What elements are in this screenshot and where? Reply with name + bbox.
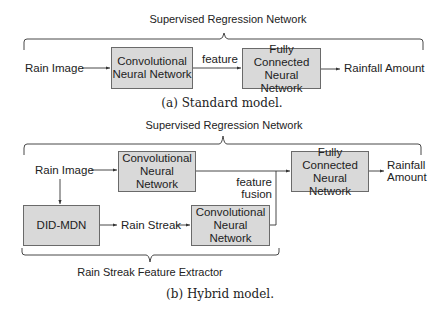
standard-fc-box: Fully Connected Neural Network	[242, 48, 321, 89]
hybrid-cnn-top-box: Convolutional Neural Network	[118, 151, 196, 192]
hybrid-bottom-brace-title: Rain Streak Feature Extractor	[77, 266, 223, 278]
hybrid-brace-title: Supervised Regression Network	[145, 119, 302, 131]
standard-feature-label: feature	[202, 53, 238, 66]
hybrid-rain-streak-label: Rain Streak	[121, 219, 181, 232]
standard-input-label: Rain Image	[25, 62, 84, 75]
figure: Supervised Regression Network Rain Image…	[0, 0, 442, 316]
standard-brace-title: Supervised Regression Network	[149, 13, 306, 25]
standard-cnn-box-label: Convolutional Neural Network	[112, 55, 192, 81]
standard-caption: (a) Standard model.	[161, 96, 282, 110]
hybrid-input-label: Rain Image	[35, 164, 94, 177]
hybrid-fc-box: Fully Connected Neural Network	[291, 151, 369, 192]
hybrid-cnn-top-box-label: Convolutional Neural Network	[119, 152, 195, 191]
standard-fc-box-label: Fully Connected Neural Network	[243, 43, 320, 95]
hybrid-didmdn-box-label: DID-MDN	[37, 219, 87, 232]
brace-top-a	[24, 33, 423, 50]
hybrid-output-label-2: Amount	[387, 171, 427, 184]
brace-bottom-b	[22, 248, 279, 262]
standard-output-label: Rainfall Amount	[344, 62, 425, 75]
standard-cnn-box: Convolutional Neural Network	[111, 47, 193, 89]
hybrid-fc-box-label: Fully Connected Neural Network	[292, 146, 368, 198]
hybrid-caption: (b) Hybrid model.	[166, 287, 274, 301]
hybrid-didmdn-box: DID-MDN	[23, 205, 100, 246]
hybrid-cnn-bottom-box: Convolutional Neural Network	[191, 205, 270, 246]
hybrid-fusion-label-2: fusion	[236, 188, 272, 201]
hybrid-cnn-bottom-box-label: Convolutional Neural Network	[192, 206, 269, 245]
